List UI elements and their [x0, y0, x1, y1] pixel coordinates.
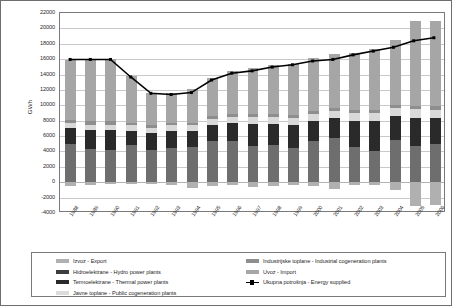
legend-color-swatch: [246, 259, 259, 263]
bar-segment: [166, 131, 177, 148]
bar-segment: [227, 114, 238, 117]
x-axis-tick-labels: 1988198919901991199219931994199519961997…: [59, 214, 445, 250]
bar-segment: [166, 93, 177, 122]
bar-segment: [349, 110, 360, 113]
legend-item: Industrijske toplane - Industrial cogene…: [246, 256, 387, 267]
y-tick-label: -2000: [41, 194, 55, 200]
plot-block: GWh 220002000018000160001400012000100008…: [23, 6, 447, 248]
bar-segment: [227, 71, 238, 114]
bar-group: [248, 13, 259, 211]
bar-segment-negative: [430, 182, 441, 204]
bar-segment: [268, 145, 279, 182]
bar-segment: [288, 148, 299, 182]
bar-group: [308, 13, 319, 211]
bar-segment: [308, 58, 319, 111]
bar-segment: [308, 114, 319, 121]
bar-group: [369, 13, 380, 211]
bar-group: [187, 13, 198, 211]
bar-segment-negative: [85, 182, 96, 184]
chart-legend: Izvoz - ExportHidroelektrane - Hydro pow…: [31, 252, 446, 297]
bar-group: [329, 13, 340, 211]
bar-segment: [105, 121, 116, 124]
bar-segment: [410, 21, 421, 106]
plot-area: [59, 12, 445, 212]
legend-column-2: Industrijske toplane - Industrial cogene…: [246, 256, 387, 288]
bar-segment: [369, 121, 380, 151]
bar-segment-negative: [308, 182, 319, 185]
bar-segment-negative: [166, 182, 177, 185]
bar-segment: [390, 40, 401, 105]
legend-item: Izvoz - Export: [56, 256, 176, 267]
bar-segment-negative: [268, 182, 279, 185]
bar-segment: [390, 140, 401, 182]
bar-segment: [65, 128, 76, 143]
bar-group: [288, 13, 299, 211]
bar-group: [207, 13, 218, 211]
bar-segment: [390, 108, 401, 116]
bar-segment: [207, 125, 218, 141]
bar-segment: [430, 21, 441, 106]
y-tick-label: 14000: [40, 71, 55, 77]
bar-segment: [369, 110, 380, 113]
legend-label: Industrijske toplane - Industrial cogene…: [263, 258, 387, 264]
bar-segment: [187, 123, 198, 126]
bar-segment-negative: [187, 182, 198, 187]
bar-segment: [227, 117, 238, 123]
bar-group: [105, 13, 116, 211]
bar-segment-negative: [410, 182, 421, 206]
bar-segment: [329, 138, 340, 183]
y-tick-label: 6000: [43, 132, 55, 138]
bar-group: [166, 13, 177, 211]
bar-segment: [248, 146, 259, 182]
bar-segment: [105, 130, 116, 150]
y-tick-label: 8000: [43, 117, 55, 123]
bar-segment: [105, 150, 116, 182]
bar-segment: [288, 118, 299, 125]
bar-segment: [308, 141, 319, 183]
bar-segment: [369, 49, 380, 110]
bar-segment: [329, 54, 340, 108]
bar-segment: [369, 151, 380, 183]
bar-group: [146, 13, 157, 211]
legend-label: Javne toplane - Public cogeneration plan…: [73, 290, 176, 296]
y-tick-label: 2000: [43, 163, 55, 169]
bar-segment: [65, 60, 76, 121]
y-tick-label: 16000: [40, 55, 55, 61]
bar-segment: [146, 128, 157, 133]
bar-segment: [166, 123, 177, 126]
bar-group: [268, 13, 279, 211]
legend-label: Uvoz - Import: [263, 269, 296, 275]
bar-segment: [126, 123, 137, 126]
bar-segment: [65, 123, 76, 128]
bar-group: [349, 13, 360, 211]
bar-segment: [248, 124, 259, 146]
bar-segment: [187, 147, 198, 182]
legend-column-1: Izvoz - ExportHidroelektrane - Hydro pow…: [56, 256, 176, 298]
bar-segment: [349, 121, 360, 147]
bar-segment: [166, 148, 177, 183]
bar-segment: [207, 141, 218, 182]
bar-segment: [105, 59, 116, 121]
bar-segment-negative: [146, 182, 157, 184]
bar-segment: [349, 147, 360, 182]
bar-segment: [85, 59, 96, 121]
legend-line-swatch: [246, 280, 259, 285]
legend-item: Uvoz - Import: [246, 267, 387, 278]
bar-segment: [85, 149, 96, 182]
bar-segment: [308, 111, 319, 114]
chart-figure: GWh 220002000018000160001400012000100008…: [0, 0, 453, 307]
bar-segment: [248, 117, 259, 124]
bar-segment: [65, 144, 76, 182]
bar-segment: [166, 125, 177, 130]
legend-color-swatch: [56, 280, 69, 284]
bar-segment: [146, 133, 157, 150]
legend-color-swatch: [56, 270, 69, 274]
bar-segment-negative: [390, 182, 401, 190]
bar-segment: [268, 117, 279, 124]
bar-segment: [85, 121, 96, 124]
y-tick-label: 4000: [43, 147, 55, 153]
bar-segment: [268, 114, 279, 117]
bar-segment: [288, 64, 299, 116]
bar-segment: [187, 125, 198, 130]
bar-segment: [288, 115, 299, 118]
